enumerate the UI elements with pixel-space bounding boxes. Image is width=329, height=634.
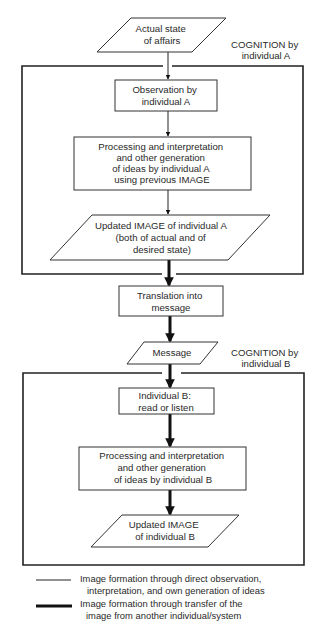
cognition-flow-diagram: COGNITION by individual A COGNITION by i… <box>0 0 329 634</box>
node-processing-a: Processing and interpretation and other … <box>74 137 251 190</box>
svg-text:Processing and interpretation: Processing and interpretation and other … <box>98 141 225 185</box>
legend-thick-label: Image formation through transfer of the … <box>80 598 245 621</box>
node-translation: Translation into message <box>119 286 223 316</box>
cognition-b-label: COGNITION by individual B <box>231 347 301 369</box>
node-message: Message <box>127 342 218 364</box>
svg-text:Individual B: read or li: Individual B: read or listen <box>138 390 193 413</box>
node-updated-image-b: Updated IMAGE of individual B <box>91 515 239 547</box>
svg-text:Processing and interpretation: Processing and interpretation and other … <box>99 450 226 485</box>
node-processing-b: Processing and interpretation and other … <box>79 447 246 490</box>
node-updated-image-a: Updated IMAGE of individual A (both of a… <box>50 215 270 260</box>
cognition-a-label: COGNITION by individual A <box>231 39 301 61</box>
legend: Image formation through direct observati… <box>36 573 265 621</box>
svg-text:Updated IMAGE of individ: Updated IMAGE of individual B <box>129 519 202 542</box>
legend-thin-label: Image formation through direct observati… <box>80 573 265 596</box>
node-observation-a: Observation by individual A <box>115 80 217 111</box>
node-individual-b-read: Individual B: read or listen <box>119 388 214 414</box>
svg-text:Observation by individua: Observation by individual A <box>132 84 199 107</box>
svg-text:Message: Message <box>153 347 192 358</box>
edges <box>168 52 170 514</box>
node-actual-state: Actual state of affairs <box>97 18 226 52</box>
